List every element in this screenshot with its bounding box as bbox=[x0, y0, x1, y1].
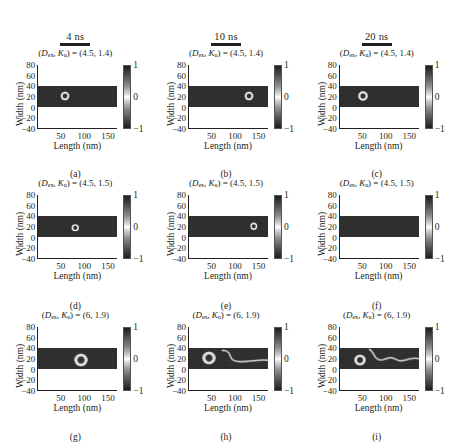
x-tick: 50 bbox=[358, 131, 367, 141]
panel-letter: (h) bbox=[151, 432, 302, 442]
y-tick: 80 bbox=[328, 61, 337, 69]
y-tick: 0 bbox=[181, 104, 186, 112]
y-tick: −40 bbox=[21, 125, 35, 133]
panel-letter: (i) bbox=[301, 432, 452, 442]
colorbar-tick: 0 bbox=[133, 92, 138, 102]
skyrmion bbox=[74, 353, 88, 366]
y-tick: 60 bbox=[328, 72, 337, 80]
colorbar bbox=[274, 195, 282, 259]
x-axis-label: Length (nm) bbox=[37, 141, 117, 151]
y-tick: 80 bbox=[177, 191, 186, 199]
y-axis-ticks: 80 60 40 20 0 −20 −40 bbox=[313, 191, 337, 263]
skyrmion bbox=[61, 92, 70, 101]
skyrmion bbox=[354, 355, 366, 366]
panel-c: (Dex, Ku) = (4.5, 1.4) Width (nm) 80 60 … bbox=[301, 48, 452, 178]
scale-bar bbox=[60, 43, 90, 46]
colorbar bbox=[425, 65, 433, 129]
y-tick: 80 bbox=[26, 191, 35, 199]
y-tick: 80 bbox=[177, 61, 186, 69]
panel-h: (Dex, Ku) = (6, 1.9) Width (nm) 80 60 40… bbox=[151, 310, 302, 441]
x-tick: 150 bbox=[402, 261, 416, 271]
x-tick: 50 bbox=[358, 393, 367, 403]
y-tick: −20 bbox=[323, 376, 337, 384]
nanostrip bbox=[340, 348, 419, 369]
heatmap-axes bbox=[339, 327, 419, 391]
y-tick: 60 bbox=[26, 72, 35, 80]
colorbar bbox=[425, 195, 433, 259]
colorbar-tick: −1 bbox=[435, 124, 445, 134]
x-axis-label: Length (nm) bbox=[339, 271, 419, 281]
colorbar-tick: 0 bbox=[284, 354, 289, 364]
colorbar-ticks: 1 0 −1 bbox=[133, 61, 149, 133]
nanostrip bbox=[189, 216, 268, 237]
x-axis-label: Length (nm) bbox=[339, 403, 419, 413]
x-tick: 50 bbox=[56, 393, 65, 403]
nanostrip bbox=[38, 348, 117, 369]
y-axis-ticks: 80 60 40 20 0 −20 −40 bbox=[162, 191, 186, 263]
y-tick: 0 bbox=[31, 234, 36, 242]
colorbar-tick: −1 bbox=[133, 124, 143, 134]
colorbar-ticks: 1 0 −1 bbox=[435, 61, 451, 133]
y-tick: 20 bbox=[328, 93, 337, 101]
colorbar-tick: −1 bbox=[435, 254, 445, 264]
panel-f: (Dex, Ku) = (4.5, 1.5) Width (nm) 80 60 … bbox=[301, 178, 452, 310]
y-tick: 0 bbox=[31, 366, 36, 374]
panel-i: (Dex, Ku) = (6, 1.9) Width (nm) 80 60 40… bbox=[301, 310, 452, 441]
colorbar-tick: 1 bbox=[284, 322, 289, 332]
x-tick: 50 bbox=[56, 131, 65, 141]
colorbar-tick: −1 bbox=[284, 124, 294, 134]
nanostrip bbox=[38, 216, 117, 237]
colorbar bbox=[274, 327, 282, 391]
y-tick: 40 bbox=[26, 212, 35, 220]
heatmap-axes bbox=[339, 65, 419, 129]
colorbar bbox=[425, 327, 433, 391]
colorbar-tick: 1 bbox=[435, 60, 440, 70]
x-tick: 50 bbox=[358, 261, 367, 271]
colorbar-tick: −1 bbox=[133, 254, 143, 264]
y-axis-ticks: 80 60 40 20 0 −20 −40 bbox=[162, 323, 186, 395]
colorbar-tick: 0 bbox=[435, 92, 440, 102]
y-axis-ticks: 80 60 40 20 0 −20 −40 bbox=[11, 61, 35, 133]
colorbar-tick: −1 bbox=[133, 386, 143, 396]
y-tick: 60 bbox=[177, 202, 186, 210]
heatmap-axes bbox=[188, 195, 268, 259]
y-axis-ticks: 80 60 40 20 0 −20 −40 bbox=[162, 61, 186, 133]
x-axis-label: Length (nm) bbox=[188, 141, 268, 151]
colorbar-ticks: 1 0 −1 bbox=[435, 323, 451, 395]
plot-area: Width (nm) 80 60 40 20 0 −20 −40 bbox=[152, 323, 300, 409]
colorbar-tick: 0 bbox=[284, 222, 289, 232]
y-tick: 0 bbox=[332, 366, 337, 374]
y-axis-ticks: 80 60 40 20 0 −20 −40 bbox=[11, 323, 35, 395]
scale-bar bbox=[362, 43, 392, 46]
y-tick: 40 bbox=[177, 212, 186, 220]
y-tick: 40 bbox=[26, 82, 35, 90]
plot-area: Width (nm) 80 60 40 20 0 −20 −40 50 100 … bbox=[1, 191, 149, 277]
x-tick: 150 bbox=[101, 393, 115, 403]
y-tick: −20 bbox=[172, 244, 186, 252]
heatmap-axes bbox=[188, 65, 268, 129]
panel-parameter-label: (Dex, Ku) = (6, 1.9) bbox=[42, 310, 109, 323]
plot-area: Width (nm) 80 60 40 20 0 −20 −40 50 100 … bbox=[303, 61, 451, 147]
colorbar-ticks: 1 0 −1 bbox=[435, 191, 451, 263]
skyrmion bbox=[245, 92, 254, 101]
panel-parameter-label: (Dex, Ku) = (4.5, 1.4) bbox=[189, 48, 263, 61]
y-tick: 0 bbox=[31, 104, 36, 112]
panel-b: (Dex, Ku) = (4.5, 1.4) Width (nm) 80 60 … bbox=[151, 48, 302, 178]
x-tick: 100 bbox=[78, 261, 92, 271]
x-tick: 100 bbox=[379, 261, 393, 271]
colorbar bbox=[274, 65, 282, 129]
panel-parameter-label: (Dex, Ku) = (4.5, 1.5) bbox=[38, 178, 112, 191]
colorbar-tick: 0 bbox=[133, 354, 138, 364]
x-tick: 100 bbox=[78, 393, 92, 403]
x-tick: 50 bbox=[56, 261, 65, 271]
panel-g: (Dex, Ku) = (6, 1.9) Width (nm) 80 60 40… bbox=[0, 310, 151, 441]
x-axis-label: Length (nm) bbox=[339, 141, 419, 151]
y-tick: 80 bbox=[26, 61, 35, 69]
panel-letter: (g) bbox=[0, 432, 151, 442]
y-tick: 80 bbox=[328, 323, 337, 331]
y-tick: 0 bbox=[332, 104, 337, 112]
panel-parameter-label: (Dex, Ku) = (4.5, 1.4) bbox=[38, 48, 112, 61]
panel-parameter-label: (Dex, Ku) = (6, 1.9) bbox=[192, 310, 259, 323]
heatmap-axes bbox=[37, 65, 117, 129]
